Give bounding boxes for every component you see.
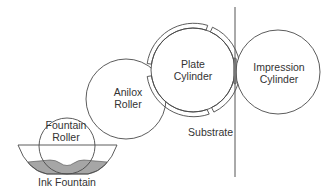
ink-fountain-label: Ink Fountain bbox=[38, 176, 96, 188]
fountain-roller-label-line2: Roller bbox=[46, 131, 87, 143]
plate-cylinder-label: Plate Cylinder bbox=[174, 58, 213, 82]
substrate-label: Substrate bbox=[188, 126, 233, 138]
anilox-roller-label: Anilox Roller bbox=[114, 86, 143, 110]
anilox-roller-label-line1: Anilox bbox=[114, 86, 143, 98]
impression-cylinder-label-line2: Cylinder bbox=[253, 73, 304, 85]
flexo-printing-diagram bbox=[0, 0, 328, 193]
anilox-roller-label-line2: Roller bbox=[114, 98, 143, 110]
fountain-roller-label: Fountain Roller bbox=[46, 119, 87, 143]
plate-cylinder-label-line2: Cylinder bbox=[174, 70, 213, 82]
impression-cylinder-label-line1: Impression bbox=[253, 61, 304, 73]
ink-fountain bbox=[18, 145, 117, 174]
impression-cylinder-label: Impression Cylinder bbox=[253, 61, 304, 85]
plate-cylinder-label-line1: Plate bbox=[174, 58, 213, 70]
fountain-roller-label-line1: Fountain bbox=[46, 119, 87, 131]
nip-ink-transfer bbox=[234, 58, 237, 84]
